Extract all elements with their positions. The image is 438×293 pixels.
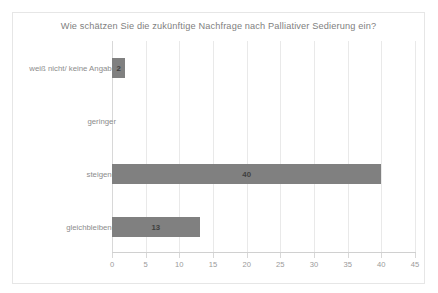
chart-title: Wie schätzen Sie die zukünftige Nachfrag… bbox=[13, 21, 424, 31]
bar-row: gleichbleibend13 bbox=[13, 200, 424, 253]
tick-label-40: 40 bbox=[377, 260, 385, 269]
tick-label-0: 0 bbox=[110, 260, 114, 269]
tick-label-45: 45 bbox=[411, 260, 419, 269]
chart-card: Wie schätzen Sie die zukünftige Nachfrag… bbox=[12, 12, 425, 284]
category-label: weiß nicht/ keine Angabe bbox=[29, 63, 116, 72]
tick-mark-0 bbox=[112, 253, 113, 258]
bar[interactable] bbox=[112, 217, 200, 237]
tick-label-30: 30 bbox=[310, 260, 318, 269]
tick-mark-25 bbox=[280, 253, 281, 258]
tick-mark-30 bbox=[314, 253, 315, 258]
tick-label-35: 35 bbox=[343, 260, 351, 269]
bar[interactable] bbox=[112, 164, 381, 184]
tick-mark-15 bbox=[213, 253, 214, 258]
tick-label-10: 10 bbox=[175, 260, 183, 269]
tick-mark-10 bbox=[179, 253, 180, 258]
bar-row: steigend40 bbox=[13, 147, 424, 200]
bar-row: weiß nicht/ keine Angabe2 bbox=[13, 41, 424, 94]
category-label: gleichbleibend bbox=[66, 222, 116, 231]
tick-label-5: 5 bbox=[144, 260, 148, 269]
tick-mark-40 bbox=[381, 253, 382, 258]
tick-mark-35 bbox=[348, 253, 349, 258]
tick-mark-20 bbox=[247, 253, 248, 258]
category-label: geringer bbox=[87, 116, 116, 125]
tick-label-25: 25 bbox=[276, 260, 284, 269]
tick-mark-5 bbox=[146, 253, 147, 258]
tick-mark-45 bbox=[415, 253, 416, 258]
bar-row: geringer bbox=[13, 94, 424, 147]
tick-label-20: 20 bbox=[242, 260, 250, 269]
bar[interactable] bbox=[112, 58, 125, 78]
tick-label-15: 15 bbox=[209, 260, 217, 269]
